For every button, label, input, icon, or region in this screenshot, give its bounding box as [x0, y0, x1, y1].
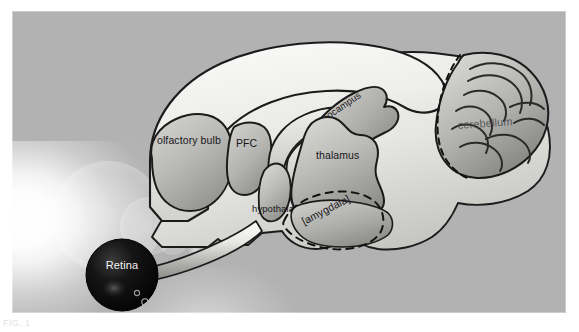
label-olfactory-bulb: olfactory bulb — [157, 134, 221, 146]
label-retina: Retina — [106, 259, 139, 271]
figure-caption: FIG. 1 — [3, 318, 30, 328]
retina-speck-left — [78, 258, 83, 263]
retina-highlight — [98, 276, 130, 300]
label-thalamus: thalamus — [316, 149, 359, 161]
label-pfc: PFC — [236, 137, 258, 149]
olfactory-bulb-shape — [151, 114, 233, 211]
brain-diagram: olfactory bulb PFC hippocampus thalamus … — [12, 11, 566, 313]
figure-panel: olfactory bulb PFC hippocampus thalamus … — [12, 11, 566, 313]
